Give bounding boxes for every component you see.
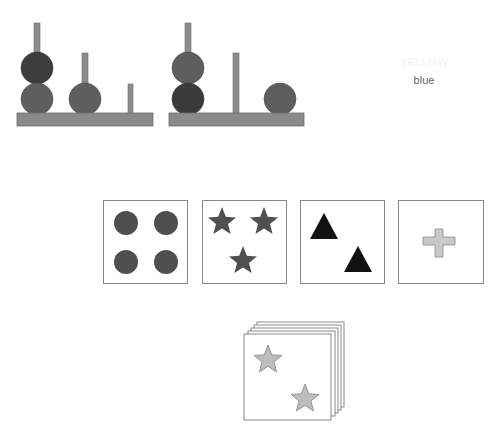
stroop-word-yellow: YELLOW	[398, 56, 450, 68]
sort-card-three-stars[interactable]	[202, 200, 287, 284]
sort-card-four-circles[interactable]	[103, 200, 188, 284]
star-icon	[229, 246, 257, 273]
star-icon	[208, 207, 236, 234]
card-deck[interactable]	[240, 318, 350, 424]
tower-puzzle-left	[16, 20, 156, 130]
sort-card-two-triangles[interactable]	[300, 200, 385, 284]
star-icon	[250, 207, 278, 234]
sort-card-one-cross[interactable]	[398, 200, 484, 284]
stroop-word-blue: blue	[398, 74, 450, 86]
tower-puzzle-right	[168, 20, 308, 130]
